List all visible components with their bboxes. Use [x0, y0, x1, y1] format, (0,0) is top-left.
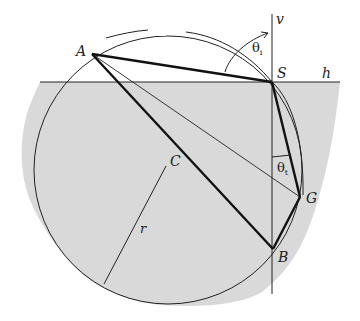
upper-arc-left: [106, 30, 148, 38]
label-r: r: [140, 221, 147, 236]
label-S: S: [277, 65, 287, 81]
label-v: v: [276, 11, 284, 27]
label-G: G: [306, 190, 317, 206]
label-C: C: [170, 153, 181, 169]
circle-gap: [148, 28, 166, 36]
label-theta-i: θi: [252, 40, 263, 57]
label-A: A: [74, 43, 86, 59]
label-h: h: [322, 65, 331, 81]
refraction-circle-diagram: A S h v C G B r θi θt: [0, 0, 360, 321]
segment-A-S: [92, 54, 272, 82]
label-B: B: [277, 249, 288, 265]
